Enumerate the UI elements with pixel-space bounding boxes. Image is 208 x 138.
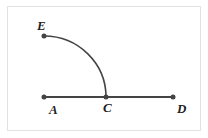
point-A (42, 95, 47, 100)
label-E: E (36, 18, 46, 33)
arc-EC (44, 36, 106, 97)
label-C: C (103, 100, 112, 115)
label-A: A (48, 102, 58, 117)
point-E (42, 34, 47, 39)
point-C (104, 95, 109, 100)
geometry-diagram: E A C D (0, 0, 208, 138)
label-D: D (176, 101, 187, 116)
point-D (171, 95, 176, 100)
